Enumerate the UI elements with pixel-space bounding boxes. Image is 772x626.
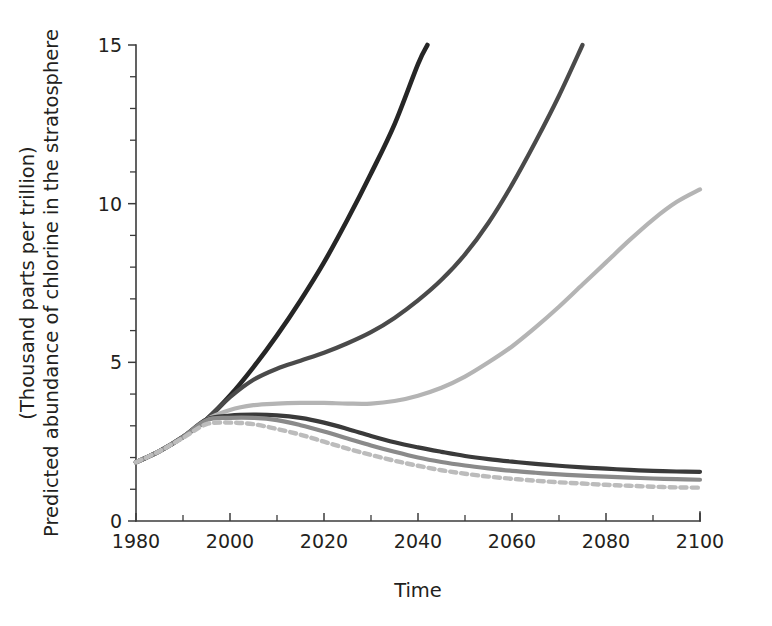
series-line-2 (136, 45, 583, 462)
x-axis-tick-labels: 1980200020202040206020802100 (112, 530, 724, 552)
x-tick-label: 2100 (676, 530, 724, 552)
y-tick-label: 15 (98, 34, 122, 56)
x-tick-label: 2080 (582, 530, 630, 552)
x-tick-label: 2000 (206, 530, 254, 552)
x-axis-ticks (136, 513, 700, 521)
series-line-1 (136, 45, 427, 462)
plot-axes: 051015 1980200020202040206020802100 (98, 34, 724, 552)
x-tick-label: 2060 (488, 530, 536, 552)
y-axis-tick-labels: 051015 (98, 34, 122, 532)
chart-figure: 051015 1980200020202040206020802100 Time… (0, 0, 772, 626)
x-tick-label: 2020 (300, 530, 348, 552)
data-series-group (136, 45, 700, 488)
y-axis-title-line-2: Predicted abundance of chlorine in the s… (40, 29, 63, 537)
x-tick-label: 2040 (394, 530, 442, 552)
x-tick-label: 1980 (112, 530, 160, 552)
line-chart: 051015 1980200020202040206020802100 Time… (0, 0, 772, 626)
x-axis-title: Time (393, 579, 442, 602)
y-tick-label: 5 (110, 351, 122, 373)
y-axis-title-line-1: (Thousand parts per trillion) (16, 146, 39, 419)
y-tick-label: 10 (98, 193, 122, 215)
y-axis-ticks (128, 45, 136, 521)
axis-titles: Time (Thousand parts per trillion) Predi… (16, 29, 442, 602)
y-tick-label: 0 (110, 510, 122, 532)
axis-lines (136, 45, 700, 521)
